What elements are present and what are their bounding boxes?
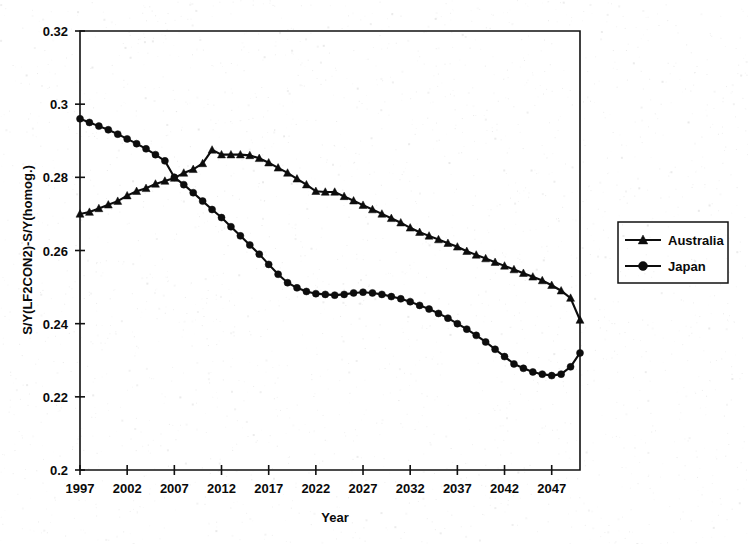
circle-marker [218,214,225,221]
circle-marker [256,251,263,258]
circle-marker [558,371,565,378]
circle-marker [577,349,584,356]
circle-marker [275,271,282,278]
x-axis-tick-labels: 1997200220072012201720222027203220372042… [66,481,567,496]
circle-marker [114,131,121,138]
circle-marker [548,372,555,379]
line-chart: 0.20.220.240.260.280.30.32 1997200220072… [0,0,748,544]
chart-figure: 0.20.220.240.260.280.30.32 1997200220072… [0,0,748,544]
circle-marker [133,140,140,147]
y-tick-label: 0.24 [43,317,69,332]
circle-marker [529,368,536,375]
x-tick-label: 2012 [207,481,236,496]
x-tick-label: 1997 [66,481,95,496]
circle-marker [639,262,648,271]
circle-marker [190,189,197,196]
circle-marker [350,289,357,296]
circle-marker [407,298,414,305]
circle-marker [77,115,84,122]
circle-marker [454,320,461,327]
x-tick-label: 2032 [396,481,425,496]
circle-marker [482,338,489,345]
circle-marker [161,157,168,164]
circle-marker [435,310,442,317]
circle-marker [520,365,527,372]
circle-marker [501,353,508,360]
chart-legend: AustraliaJapan [618,222,728,283]
x-tick-label: 2027 [349,481,378,496]
x-tick-label: 2002 [113,481,142,496]
y-tick-label: 0.28 [43,170,68,185]
legend-label: Australia [668,233,724,248]
circle-marker [171,174,178,181]
circle-marker [209,206,216,213]
circle-marker [152,151,159,158]
circle-marker [567,363,574,370]
circle-marker [388,293,395,300]
circle-marker [369,289,376,296]
y-axis-title: S/Y(LF2CON2)-S/Y(homog.) [20,165,35,335]
circle-marker [199,198,206,205]
circle-marker [312,290,319,297]
circle-marker [180,181,187,188]
y-tick-label: 0.3 [50,97,68,112]
y-tick-label: 0.22 [43,390,68,405]
x-tick-label: 2037 [443,481,472,496]
circle-marker [95,123,102,130]
circle-marker [143,145,150,152]
circle-marker [416,302,423,309]
x-tick-label: 2017 [254,481,283,496]
x-tick-label: 2047 [537,481,566,496]
circle-marker [492,346,499,353]
circle-marker [539,371,546,378]
circle-marker [378,291,385,298]
circle-marker [473,332,480,339]
circle-marker [444,315,451,322]
circle-marker [227,223,234,230]
circle-marker [237,232,244,239]
circle-marker [463,326,470,333]
circle-marker [124,135,131,142]
circle-marker [510,360,517,367]
circle-marker [246,242,253,249]
circle-marker [426,306,433,313]
circle-marker [86,119,93,126]
circle-marker [341,291,348,298]
circle-marker [105,126,112,133]
circle-marker [265,261,272,268]
x-axis-title: Year [321,510,348,525]
x-tick-label: 2007 [160,481,189,496]
x-tick-label: 2022 [301,481,330,496]
y-tick-label: 0.26 [43,244,68,259]
circle-marker [360,289,367,296]
circle-marker [331,292,338,299]
circle-marker [303,288,310,295]
circle-marker [322,291,329,298]
circle-marker [293,284,300,291]
x-tick-label: 2042 [490,481,519,496]
legend-label: Japan [668,259,706,274]
y-tick-label: 0.2 [50,463,68,478]
circle-marker [397,295,404,302]
circle-marker [284,279,291,286]
y-tick-label: 0.32 [43,24,68,39]
